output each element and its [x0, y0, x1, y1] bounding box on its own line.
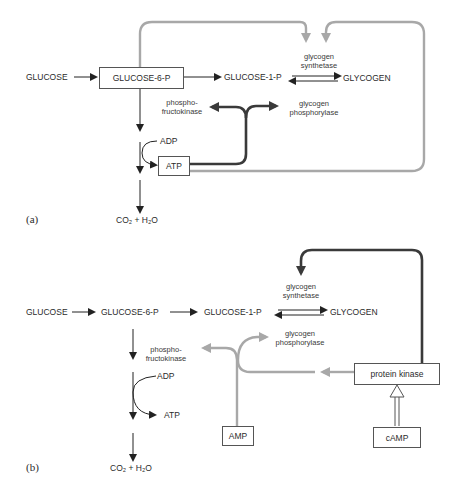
glucose-1-p-label-b: GLUCOSE-1-P [204, 308, 262, 317]
panel-label-a: (a) [26, 214, 38, 225]
glycogen-label-b: GLYCOGEN [330, 308, 378, 317]
glucose-label-a: GLUCOSE [26, 73, 68, 82]
adp-label-a: ADP [160, 137, 177, 146]
glycogen-phosphorylase-a: glycogen phosphorylase [282, 99, 346, 117]
amp-box: AMP [222, 426, 254, 446]
phosphofructokinase-b: phospho- fructokinase [140, 345, 192, 363]
glycogen-synthetase-b: glycogen synthetase [275, 282, 327, 300]
atp-box-a: ATP [158, 156, 190, 176]
adp-label-b: ADP [157, 372, 174, 381]
glucose-6-p-label-b: GLUCOSE-6-P [101, 308, 159, 317]
glycogen-label-a: GLYCOGEN [343, 74, 391, 83]
glycogen-synthetase-a: glycogen synthetase [293, 52, 345, 70]
products-label-a: CO₂ + H₂O [116, 216, 158, 225]
panel-label-b: (b) [26, 462, 39, 473]
atp-label-b: ATP [164, 411, 180, 420]
glucose-6-p-box-a: GLUCOSE-6-P [99, 67, 184, 89]
protein-kinase-box: protein kinase [354, 363, 440, 385]
glucose-1-p-label-a: GLUCOSE-1-P [224, 73, 282, 82]
camp-box: cAMP [373, 427, 421, 448]
glucose-label-b: GLUCOSE [26, 308, 68, 317]
products-label-b: CO₂ + H₂O [110, 464, 152, 473]
glycogen-phosphorylase-b: glycogen phosphorylase [268, 329, 332, 347]
panel-a-arrows [74, 22, 424, 212]
phosphofructokinase-a: phospho- fructokinase [156, 98, 208, 116]
